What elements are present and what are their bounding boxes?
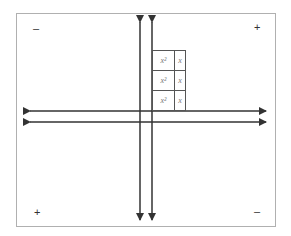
sign-bottom-right: – [254, 206, 260, 217]
sign-bottom-left: + [34, 207, 40, 218]
x-squared-tile: x² [152, 50, 175, 71]
x-squared-tile: x² [152, 90, 175, 111]
x-tile: x [174, 70, 186, 91]
x-tile: x [174, 90, 186, 111]
double-axes [0, 0, 291, 236]
x-tile: x [174, 50, 186, 71]
sign-top-right: + [254, 22, 260, 33]
sign-top-left: – [33, 23, 39, 34]
x-squared-tile: x² [152, 70, 175, 91]
